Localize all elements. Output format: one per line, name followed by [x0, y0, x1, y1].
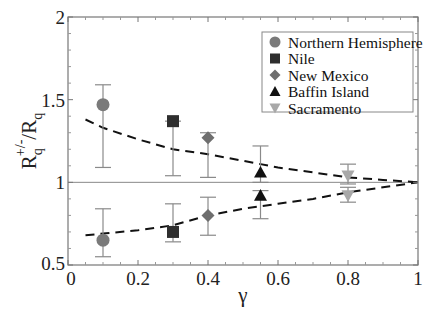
data-point-sacramento [342, 190, 355, 202]
y-tick-label: 2 [56, 7, 66, 28]
x-tick-label: 0.2 [126, 268, 150, 289]
x-tick-label: 0 [66, 268, 76, 289]
y-axis-label: Rq+/-/Rq [13, 113, 45, 169]
y-label-tail-sub: q [30, 113, 45, 120]
legend-label: Northern Hemisphere [288, 34, 423, 51]
x-tick-label: 0.4 [196, 268, 220, 289]
curve-layer [86, 120, 419, 236]
y-tick-label: 0.5 [41, 253, 65, 274]
data-point-baffin-island [254, 166, 267, 178]
data-point-northern-hemisphere [97, 98, 110, 111]
legend-label: Nile [288, 50, 315, 67]
x-axis-label: γ [237, 283, 247, 307]
y-tick-label: 1.5 [41, 90, 65, 111]
y-label-sup: +/- [13, 139, 28, 156]
legend-label: Sacramento [288, 100, 361, 117]
marker-layer [97, 98, 355, 247]
chart: 00.20.40.60.810.511.52 γ Rq+/-/Rq Northe… [0, 0, 435, 310]
y-tick-label: 1 [56, 172, 66, 193]
model-upper-curve [86, 120, 419, 183]
data-point-sacramento [342, 171, 355, 183]
x-tick-label: 0.8 [336, 268, 360, 289]
legend-label: New Mexico [288, 67, 369, 84]
y-label-tail: /R [17, 120, 41, 140]
data-point-nile [167, 226, 179, 238]
x-tick-label: 0.6 [266, 268, 290, 289]
data-point-new-mexico [202, 209, 215, 222]
legend: Northern HemisphereNileNew MexicoBaffin … [262, 32, 423, 117]
y-label-main: R [17, 155, 41, 169]
y-label-sub: q [30, 148, 45, 155]
model-lower-curve [86, 182, 419, 235]
data-point-nile [167, 115, 179, 127]
legend-marker-circle [270, 37, 281, 48]
data-point-northern-hemisphere [97, 234, 110, 247]
legend-marker-square [270, 54, 280, 64]
x-tick-label: 1 [413, 268, 423, 289]
svg-text:Rq+/-/Rq: Rq+/-/Rq [13, 113, 45, 169]
legend-label: Baffin Island [288, 83, 369, 100]
